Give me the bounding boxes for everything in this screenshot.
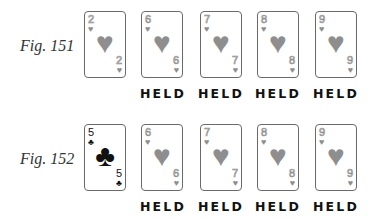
card-7-hearts: 7 ♥ ♥ 7 ♥	[200, 11, 242, 78]
figure-label: Fig. 151	[20, 37, 74, 55]
card-8-hearts: 8 ♥ ♥ 8 ♥	[257, 11, 299, 78]
card-5-clubs: 5 ♣ ♣ 5 ♣	[84, 124, 126, 191]
held-label: HELD	[195, 86, 247, 101]
held-label: HELD	[252, 86, 304, 101]
card-6-hearts: 6 ♥ ♥ 6 ♥	[141, 124, 183, 191]
card-2-hearts: 2 ♥ ♥ 2 ♥	[84, 11, 126, 78]
held-label: HELD	[252, 199, 304, 214]
heart-icon: ♥	[117, 66, 122, 75]
card-6-hearts: 6 ♥ ♥ 6 ♥	[141, 11, 183, 78]
held-label: HELD	[137, 86, 189, 101]
club-icon: ♣	[116, 179, 122, 188]
heart-icon: ♥	[233, 66, 238, 75]
card-9-hearts: 9 ♥ ♥ 9 ♥	[315, 124, 357, 191]
heart-icon: ♥	[290, 179, 295, 188]
card-7-hearts: 7 ♥ ♥ 7 ♥	[200, 124, 242, 191]
heart-icon: ♥	[348, 179, 353, 188]
card-9-hearts: 9 ♥ ♥ 9 ♥	[315, 11, 357, 78]
held-label: HELD	[310, 86, 362, 101]
held-label: HELD	[137, 199, 189, 214]
card-8-hearts: 8 ♥ ♥ 8 ♥	[257, 124, 299, 191]
heart-icon: ♥	[348, 66, 353, 75]
heart-icon: ♥	[290, 66, 295, 75]
figure-label: Fig. 152	[20, 150, 74, 168]
held-label: HELD	[310, 199, 362, 214]
heart-icon: ♥	[174, 66, 179, 75]
held-label: HELD	[195, 199, 247, 214]
heart-icon: ♥	[233, 179, 238, 188]
heart-icon: ♥	[174, 179, 179, 188]
